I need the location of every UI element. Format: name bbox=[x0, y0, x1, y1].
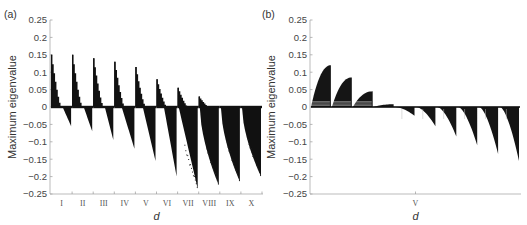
panel-a: (a)0.250.20.150.10.050−0.05−0.1−0.15−0.2… bbox=[4, 8, 263, 222]
negative-arc bbox=[458, 107, 477, 145]
positive-arc bbox=[332, 77, 352, 107]
y-tick-label: 0.1 bbox=[294, 67, 307, 78]
positive-bar-group bbox=[114, 62, 123, 107]
panel-b: (b)0.250.20.150.10.050−0.05−0.1−0.15−0.2… bbox=[262, 8, 521, 222]
panel-label: (a) bbox=[4, 8, 17, 20]
x-category-label: III bbox=[100, 199, 108, 208]
x-category-label: VI bbox=[163, 199, 172, 208]
y-axis-label: Maximum eigenvalue bbox=[6, 55, 18, 159]
positive-bar-group bbox=[72, 55, 81, 107]
positive-bar-group bbox=[135, 67, 144, 107]
x-category-label: II bbox=[80, 199, 86, 208]
y-tick-label: 0.25 bbox=[29, 14, 48, 25]
positive-bar-group bbox=[178, 88, 187, 107]
y-tick-label: 0 bbox=[302, 101, 307, 112]
x-axis-label: d bbox=[412, 210, 419, 222]
plot-area bbox=[51, 55, 262, 189]
y-axis-label: Maximum eigenvalue bbox=[265, 55, 277, 159]
y-tick-label: −0.25 bbox=[23, 188, 47, 199]
x-category-label: VIII bbox=[202, 199, 216, 208]
negative-bar-group bbox=[84, 107, 92, 131]
y-tick-label: −0.1 bbox=[288, 136, 307, 147]
y-tick-label: −0.15 bbox=[283, 154, 307, 165]
x-category-label: IV bbox=[121, 199, 130, 208]
negative-bar-group bbox=[143, 107, 156, 161]
y-tick-label: −0.25 bbox=[283, 188, 307, 199]
y-tick-label: −0.05 bbox=[23, 119, 47, 130]
negative-bar-group bbox=[63, 107, 71, 126]
y-tick-label: −0.2 bbox=[288, 171, 307, 182]
negative-arc bbox=[396, 107, 415, 116]
negative-bar-group bbox=[105, 107, 113, 140]
positive-bar-group bbox=[199, 97, 208, 107]
y-tick-label: −0.15 bbox=[23, 154, 47, 165]
figure: (a)0.250.20.150.10.050−0.05−0.1−0.15−0.2… bbox=[0, 0, 527, 225]
y-tick-label: 0.15 bbox=[29, 49, 48, 60]
positive-arc bbox=[311, 65, 331, 107]
y-tick-label: 0.15 bbox=[289, 49, 308, 60]
y-tick-label: 0.2 bbox=[34, 32, 47, 43]
x-category-label: IX bbox=[226, 199, 235, 208]
plot-area bbox=[311, 65, 520, 161]
x-category-label: X bbox=[249, 199, 255, 208]
negative-arc bbox=[417, 107, 436, 126]
positive-bar-group bbox=[51, 55, 60, 107]
y-tick-label: −0.2 bbox=[28, 171, 47, 182]
y-tick-label: 0 bbox=[42, 101, 47, 112]
panel-label: (b) bbox=[262, 8, 275, 20]
x-category-label: VII bbox=[183, 199, 194, 208]
x-category-label: V bbox=[413, 199, 419, 208]
negative-arc bbox=[479, 107, 498, 154]
negative-arc bbox=[437, 107, 456, 137]
chart-canvas: (a)0.250.20.150.10.050−0.05−0.1−0.15−0.2… bbox=[0, 0, 527, 225]
x-category-label: V bbox=[143, 199, 149, 208]
y-tick-label: −0.05 bbox=[283, 119, 307, 130]
negative-arc bbox=[500, 107, 519, 161]
y-tick-label: 0.2 bbox=[294, 32, 307, 43]
positive-bar-group bbox=[93, 58, 102, 107]
y-tick-label: 0.05 bbox=[29, 84, 48, 95]
y-tick-label: 0.25 bbox=[289, 14, 308, 25]
negative-bar-group bbox=[122, 107, 135, 149]
y-tick-label: −0.1 bbox=[28, 136, 47, 147]
x-axis-label: d bbox=[153, 210, 160, 222]
positive-bar-group bbox=[157, 79, 166, 107]
y-tick-label: 0.05 bbox=[289, 84, 308, 95]
x-category-label: I bbox=[60, 199, 63, 208]
y-tick-label: 0.1 bbox=[34, 67, 47, 78]
negative-bar-group bbox=[164, 107, 177, 177]
positive-arc bbox=[353, 91, 373, 107]
